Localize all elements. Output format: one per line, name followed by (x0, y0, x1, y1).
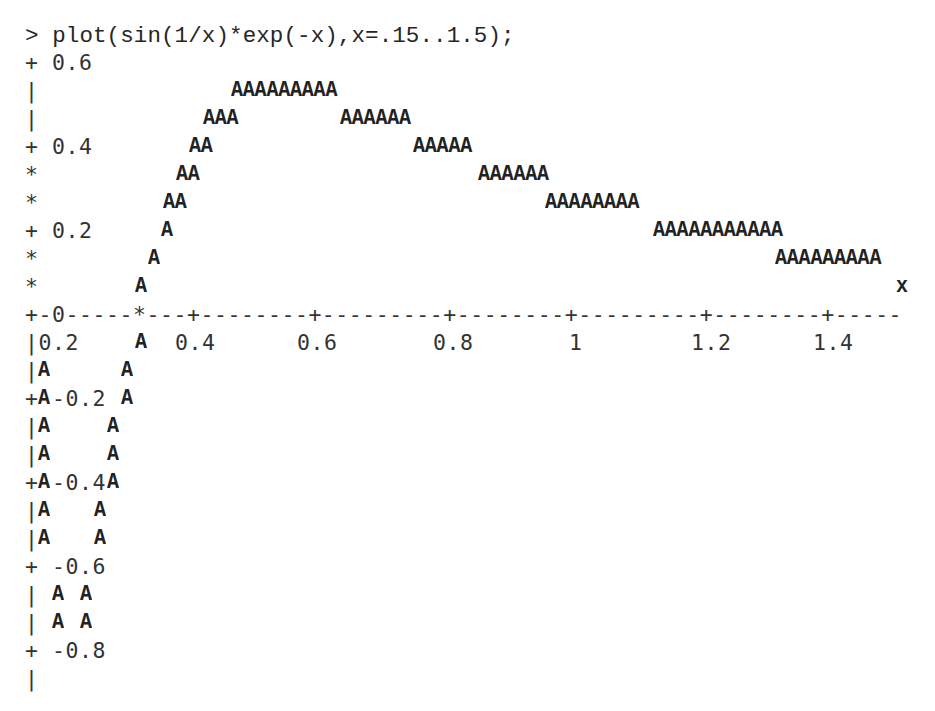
plot-marker: AA (163, 187, 187, 218)
y-axis-segment: | (25, 581, 39, 609)
x-axis-label: x (896, 271, 908, 302)
y-axis-segment: * (25, 245, 39, 273)
plot-row: + 0.6 (0, 49, 935, 77)
tick-label: + 0.6 (25, 49, 92, 77)
plot-marker: A (38, 439, 50, 470)
plot-marker: AAAAA (413, 131, 472, 162)
plot-marker: A (121, 355, 133, 386)
plot-marker: A (107, 439, 119, 470)
tick-label: 1.4 (813, 329, 853, 357)
plot-row: + 0.2AAAAAAAAAAAA (0, 217, 935, 245)
plot-row: |AAAAAAAAA (0, 105, 935, 133)
plot-marker: A (38, 523, 50, 554)
plot-marker: A (94, 523, 106, 554)
y-axis-segment: | (25, 525, 39, 553)
command-line: > plot(sin(1/x)*exp(-x),x=.15..1.5); (0, 22, 935, 50)
plot-marker: AAAAAAAAAAA (653, 215, 783, 246)
tick-label: 1 (569, 329, 583, 357)
plot-row: *AAAAAAAAAA (0, 189, 935, 217)
plot-row: |AA (0, 497, 935, 525)
y-axis-segment: | (25, 665, 39, 693)
y-axis-segment: | (25, 609, 39, 637)
plot-marker: AAAAAAAAA (231, 75, 337, 106)
plot-row: *Ax (0, 273, 935, 301)
y-axis-segment: + (25, 469, 39, 497)
plot-row: |AA (0, 609, 935, 637)
plot-marker: A (38, 383, 50, 414)
y-axis-segment: | (25, 105, 39, 133)
tick-label: 0.6 (297, 329, 337, 357)
plot-marker: A (52, 607, 64, 638)
y-axis-segment: * (25, 273, 39, 301)
plot-marker: AAAAAAAA (545, 187, 639, 218)
plot-row: + -0.6 (0, 553, 935, 581)
plot-row: + -0.8 (0, 637, 935, 665)
x-axis: +-0-----*---+--------+---------+--------… (25, 301, 902, 329)
tick-label: |0.2 (25, 329, 79, 357)
plot-marker: AAAAAA (340, 103, 411, 134)
y-axis-segment: + (25, 385, 39, 413)
plot-marker: A (107, 467, 119, 498)
plot-marker: A (135, 327, 147, 358)
tick-label: -0.2 (52, 385, 106, 413)
plot-marker: A (38, 495, 50, 526)
y-axis-segment: | (25, 413, 39, 441)
tick-label: + -0.6 (25, 553, 106, 581)
y-axis-segment: | (25, 357, 39, 385)
tick-label: + -0.8 (25, 637, 106, 665)
plot-row: |AA (0, 525, 935, 553)
plot-marker: AAA (203, 103, 238, 134)
plot-row: |0.2A0.40.60.811.21.4 (0, 329, 935, 357)
plot-marker: A (80, 579, 92, 610)
plot-row: +A-0.2A (0, 385, 935, 413)
plot-marker: A (52, 579, 64, 610)
plot-row: |AA (0, 413, 935, 441)
plot-marker: A (148, 243, 160, 274)
plot-marker: A (161, 215, 173, 246)
plot-row: |AA (0, 581, 935, 609)
tick-label: 0.8 (433, 329, 473, 357)
plot-row: |AAAAAAAAA (0, 77, 935, 105)
plot-marker: AA (176, 159, 200, 190)
plot-row: |AA (0, 357, 935, 385)
tick-label: -0.4 (52, 469, 106, 497)
plot-marker: AA (189, 131, 213, 162)
plot-row: *AAAAAAAAAA (0, 245, 935, 273)
plot-row: | (0, 665, 935, 693)
plot-marker: A (121, 383, 133, 414)
plot-marker: A (38, 411, 50, 442)
plot-marker: A (107, 411, 119, 442)
plot-marker: A (80, 607, 92, 638)
plot-marker: AAAAAA (478, 159, 549, 190)
plot-marker: AAAAAAAAA (775, 243, 881, 274)
plot-marker: A (94, 495, 106, 526)
plot-row: |AA (0, 441, 935, 469)
y-axis-segment: | (25, 441, 39, 469)
y-axis-segment: | (25, 77, 39, 105)
plot-marker: A (38, 355, 50, 386)
y-axis-segment: * (25, 161, 39, 189)
tick-label: + 0.2 (25, 217, 92, 245)
tick-label: 0.4 (175, 329, 215, 357)
plot-row: *AAAAAAAA (0, 161, 935, 189)
plot-marker: A (38, 467, 50, 498)
plot-marker: A (135, 271, 147, 302)
ascii-plot: > plot(sin(1/x)*exp(-x),x=.15..1.5);+ 0.… (0, 0, 935, 711)
y-axis-segment: * (25, 189, 39, 217)
tick-label: + 0.4 (25, 133, 92, 161)
plot-row: +A-0.4A (0, 469, 935, 497)
maple-command: > plot(sin(1/x)*exp(-x),x=.15..1.5); (25, 22, 515, 50)
plot-row: + 0.4AAAAAAA (0, 133, 935, 161)
y-axis-segment: | (25, 497, 39, 525)
x-axis-line: +-0-----*---+--------+---------+--------… (0, 301, 935, 329)
tick-label: 1.2 (691, 329, 731, 357)
